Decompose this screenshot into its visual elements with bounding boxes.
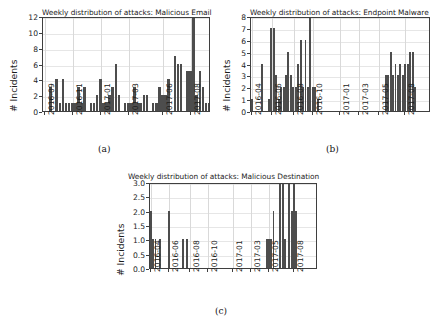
- x-tick-label: 2017-01: [342, 83, 351, 115]
- y-tick-mark: [39, 112, 42, 113]
- plot-title-a: Weekly distribution of attacks: Maliciou…: [42, 8, 212, 17]
- x-tick-mark: [128, 112, 129, 115]
- subplot-caption-b: (b): [326, 144, 339, 154]
- subplot-caption-a: (a): [98, 144, 110, 154]
- y-tick-label: 3: [241, 72, 246, 81]
- bar: [168, 211, 170, 268]
- y-tick-label: 2: [33, 92, 38, 101]
- x-tick-mark: [168, 269, 169, 272]
- y-tick-label: 5: [241, 48, 246, 57]
- y-tick-label: 4: [241, 60, 246, 69]
- x-tick-mark: [268, 269, 269, 272]
- x-tick-label: 2016-04: [153, 240, 162, 272]
- y-tick-mark: [146, 183, 149, 184]
- plot-area-a: [42, 17, 210, 112]
- x-tick-mark: [293, 112, 294, 115]
- x-tick-label: 2017-05: [271, 240, 280, 272]
- y-tick-mark: [146, 226, 149, 227]
- y-tick-label: 4: [33, 76, 38, 85]
- x-tick-mark: [44, 112, 45, 115]
- y-tick-label: 0.5: [133, 250, 145, 259]
- y-tick-label: 8: [241, 13, 246, 22]
- y-tick-mark: [39, 65, 42, 66]
- x-tick-label: 2017-03: [253, 240, 262, 272]
- y-tick-label: 0: [241, 108, 246, 117]
- x-tick-label: 2017-08: [407, 83, 416, 115]
- x-tick-label: 2016-06: [274, 83, 283, 115]
- y-axis-label-a: # Incidents: [8, 60, 19, 112]
- y-tick-mark: [247, 17, 250, 18]
- y-tick-mark: [247, 41, 250, 42]
- y-tick-mark: [247, 76, 250, 77]
- y-tick-mark: [247, 29, 250, 30]
- x-tick-label: 2017-08: [193, 83, 202, 115]
- x-tick-mark: [404, 112, 405, 115]
- x-tick-mark: [100, 112, 101, 115]
- y-axis-label-c: # Incidents: [115, 224, 126, 276]
- y-tick-mark: [247, 53, 250, 54]
- y-tick-label: 1.5: [133, 222, 145, 231]
- x-tick-label: 2017-01: [235, 240, 244, 272]
- x-tick-label: 2017-05: [381, 83, 390, 115]
- x-tick-mark: [250, 269, 251, 272]
- bar: [146, 95, 149, 111]
- y-tick-label: 0.0: [133, 265, 145, 274]
- x-tick-label: 2016-04: [254, 83, 263, 115]
- y-tick-mark: [146, 212, 149, 213]
- x-tick-mark: [190, 112, 191, 115]
- y-tick-label: 2: [241, 84, 246, 93]
- bar: [180, 64, 183, 112]
- x-tick-label: 2016-10: [315, 83, 324, 115]
- x-tick-label: 2016-08: [192, 240, 201, 272]
- x-tick-mark: [358, 112, 359, 115]
- y-tick-mark: [247, 88, 250, 89]
- y-tick-mark: [39, 49, 42, 50]
- x-tick-mark: [251, 112, 252, 115]
- x-tick-label: 2016-10: [210, 240, 219, 272]
- x-tick-mark: [293, 269, 294, 272]
- x-tick-label: 2016-06: [171, 240, 180, 272]
- bar: [284, 239, 286, 268]
- x-tick-label: 2016-08: [296, 83, 305, 115]
- y-tick-label: 1.0: [133, 236, 145, 245]
- x-tick-mark: [189, 269, 190, 272]
- y-tick-label: 3.0: [133, 179, 145, 188]
- y-tick-mark: [39, 33, 42, 34]
- y-tick-mark: [39, 17, 42, 18]
- x-tick-mark: [162, 112, 163, 115]
- y-tick-mark: [146, 197, 149, 198]
- x-tick-label: 2017-06: [165, 83, 174, 115]
- y-tick-label: 6: [241, 36, 246, 45]
- y-tick-label: 1: [241, 96, 246, 105]
- plot-title-b: Weekly distribution of attacks: Endpoint…: [250, 8, 429, 17]
- figure-canvas: Weekly distribution of attacks: Maliciou…: [0, 0, 435, 329]
- subplot-c: Weekly distribution of attacks: Maliciou…: [112, 172, 328, 327]
- x-tick-label: 2017-01: [103, 83, 112, 115]
- x-tick-mark: [378, 112, 379, 115]
- bar: [208, 103, 210, 111]
- x-tick-label: 2016-09: [47, 83, 56, 115]
- subplot-b: Weekly distribution of attacks: Endpoint…: [219, 8, 433, 160]
- y-tick-label: 7: [241, 24, 246, 33]
- y-tick-mark: [247, 100, 250, 101]
- y-tick-mark: [146, 255, 149, 256]
- subplot-caption-c: (c): [215, 306, 227, 316]
- y-tick-label: 12: [28, 13, 38, 22]
- y-tick-mark: [247, 112, 250, 113]
- x-tick-label: 2017-03: [131, 83, 140, 115]
- x-tick-label: 2017-03: [361, 83, 370, 115]
- plot-title-c: Weekly distribution of attacks: Maliciou…: [128, 172, 319, 181]
- y-tick-label: 2.5: [133, 193, 145, 202]
- y-axis-label-b: # Incidents: [221, 60, 232, 112]
- subplot-a: Weekly distribution of attacks: Maliciou…: [2, 8, 214, 160]
- y-tick-label: 10: [28, 28, 38, 37]
- y-tick-label: 2.0: [133, 207, 145, 216]
- x-tick-mark: [271, 112, 272, 115]
- bar: [118, 95, 121, 111]
- x-tick-mark: [207, 269, 208, 272]
- y-tick-mark: [146, 269, 149, 270]
- y-tick-mark: [39, 96, 42, 97]
- y-tick-mark: [39, 80, 42, 81]
- x-tick-mark: [150, 269, 151, 272]
- bar: [251, 99, 253, 111]
